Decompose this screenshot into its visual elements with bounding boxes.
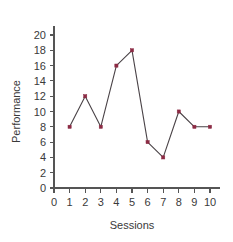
y-tick-label: 18 (34, 44, 46, 56)
x-tick-label: 3 (98, 196, 104, 208)
data-point-marker (146, 141, 149, 144)
data-point-marker (208, 125, 211, 128)
x-tick-label: 8 (176, 196, 182, 208)
x-axis-title: Sessions (110, 219, 155, 231)
y-tick-label: 8 (40, 121, 46, 133)
data-point-marker (84, 95, 87, 98)
y-tick-label: 12 (34, 90, 46, 102)
x-tick-label: 0 (51, 196, 57, 208)
y-tick-label: 0 (40, 182, 46, 194)
x-tick-label: 4 (113, 196, 119, 208)
x-tick-label: 7 (160, 196, 166, 208)
x-tick-label: 2 (82, 196, 88, 208)
y-tick-label: 6 (40, 136, 46, 148)
x-tick-label: 6 (145, 196, 151, 208)
x-tick-label: 1 (67, 196, 73, 208)
x-tick-label: 10 (204, 196, 216, 208)
line-chart: 02468101214161820012345678910SessionsPer… (0, 0, 233, 242)
x-tick-label: 5 (129, 196, 135, 208)
y-axis-title: Performance (10, 80, 22, 143)
y-tick-label: 4 (40, 151, 46, 163)
data-point-marker (115, 64, 118, 67)
y-tick-label: 16 (34, 60, 46, 72)
y-tick-label: 14 (34, 75, 46, 87)
x-tick-label: 9 (191, 196, 197, 208)
y-tick-label: 20 (34, 29, 46, 41)
y-tick-label: 10 (34, 106, 46, 118)
data-line (70, 50, 210, 157)
data-point-marker (177, 110, 180, 113)
data-point-marker (68, 125, 71, 128)
chart-canvas: 02468101214161820012345678910SessionsPer… (0, 0, 233, 242)
data-point-marker (99, 125, 102, 128)
y-tick-label: 2 (40, 167, 46, 179)
data-point-marker (193, 125, 196, 128)
data-point-marker (130, 49, 133, 52)
data-point-marker (162, 156, 165, 159)
